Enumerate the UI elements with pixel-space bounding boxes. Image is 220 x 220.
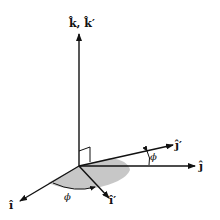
right-angle-marker: [79, 147, 90, 162]
k-axis-label: k̂, k̂′: [68, 16, 94, 30]
j-prime-axis-label: ĵ′: [174, 139, 182, 152]
j-axis-label: ĵ: [198, 160, 203, 173]
j-prime-axis: [79, 145, 173, 166]
phi-label-top: ϕ: [150, 151, 157, 162]
i-axis-label: î: [9, 199, 14, 212]
i-prime-axis-label: î′: [109, 194, 116, 207]
phi-label-bottom: ϕ: [64, 191, 71, 202]
rotation-shaded-sector: [48, 158, 130, 189]
rotation-diagram: k̂, k̂′ ĵ ĵ′ î î′ ϕ ϕ: [0, 0, 220, 220]
